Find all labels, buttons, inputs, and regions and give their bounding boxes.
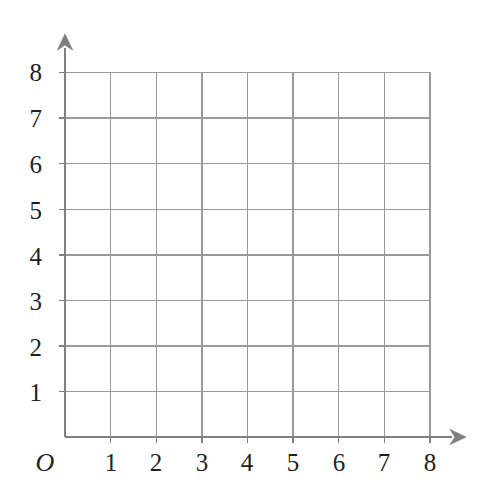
- y-tick-label-7: 7: [16, 106, 42, 131]
- y-axis-arrow-icon: [58, 34, 73, 50]
- x-axis: [65, 430, 466, 445]
- y-tick-label-8: 8: [16, 60, 42, 85]
- y-tick-label-3: 3: [16, 289, 42, 314]
- y-tick-label-2: 2: [16, 335, 42, 360]
- grid-canvas: [0, 0, 491, 501]
- x-tick-label-3: 3: [189, 450, 215, 475]
- origin-label: O: [30, 450, 60, 476]
- y-tick-label-6: 6: [16, 152, 42, 177]
- x-axis-arrow-icon: [450, 430, 466, 445]
- x-tick-label-8: 8: [417, 450, 443, 475]
- x-tick-label-6: 6: [326, 450, 352, 475]
- x-tick-label-7: 7: [371, 450, 397, 475]
- y-tick-label-4: 4: [16, 244, 42, 269]
- x-tick-label-1: 1: [98, 450, 124, 475]
- x-tick-label-4: 4: [234, 450, 260, 475]
- x-tick-label-5: 5: [280, 450, 306, 475]
- coordinate-grid-figure: 8 7 6 5 4 3 2 1 O 1 2 3 4 5 6 7 8: [0, 0, 491, 501]
- x-tick-label-2: 2: [143, 450, 169, 475]
- y-axis: [58, 34, 73, 437]
- y-tick-label-5: 5: [16, 198, 42, 223]
- y-tick-label-1: 1: [16, 380, 42, 405]
- horizontal-gridlines: [60, 72, 430, 391]
